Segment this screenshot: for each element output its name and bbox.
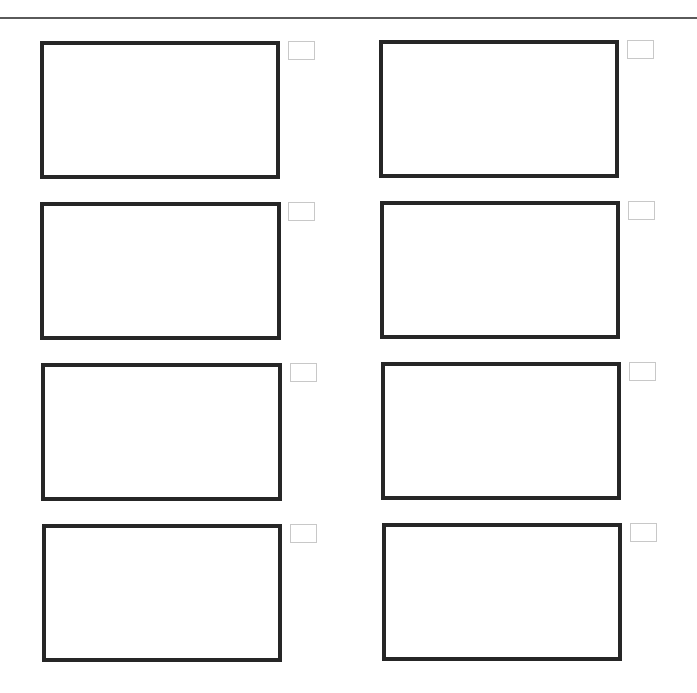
frame-number-box [629,362,656,381]
storyboard-frame [41,363,282,501]
top-divider-rule [0,17,697,19]
storyboard-frame [40,202,281,340]
frame-number-box [290,363,317,382]
storyboard-frame [379,40,619,178]
frame-number-box [628,201,655,220]
storyboard-frame [381,362,621,500]
frame-number-box [288,202,315,221]
frame-number-box [627,40,654,59]
frame-number-box [288,41,315,60]
storyboard-frame [382,523,622,661]
storyboard-frame [42,524,282,662]
storyboard-frame [40,41,280,179]
frame-number-box [630,523,657,542]
frame-number-box [290,524,317,543]
storyboard-frame [380,201,620,339]
